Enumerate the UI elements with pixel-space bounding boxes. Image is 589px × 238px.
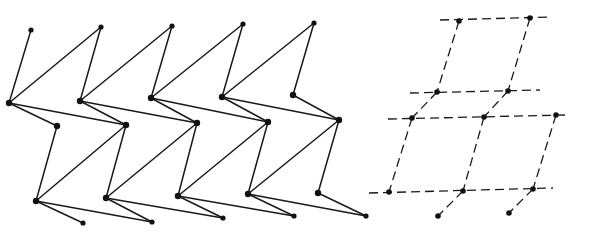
bond	[222, 97, 268, 122]
bond	[248, 194, 366, 216]
bond	[293, 23, 314, 95]
atom-node	[553, 112, 559, 118]
atom-node	[456, 18, 462, 24]
atom-node	[245, 191, 251, 197]
bond	[248, 120, 339, 194]
atom-node	[265, 119, 271, 125]
bond	[106, 125, 126, 198]
atom-node	[530, 186, 536, 192]
atom-node	[80, 220, 85, 225]
atom-node	[54, 123, 60, 129]
left-structure-bonds	[9, 23, 366, 223]
atom-node	[506, 210, 512, 216]
bond	[484, 91, 508, 117]
atom-node	[481, 114, 487, 120]
atom-node	[194, 120, 200, 126]
atom-node	[169, 23, 174, 28]
bond	[318, 120, 339, 193]
bond	[36, 126, 57, 201]
bond	[222, 24, 243, 97]
bond	[412, 92, 437, 118]
atom-node	[505, 88, 511, 94]
bond	[151, 24, 243, 98]
bond	[80, 27, 101, 101]
bond	[438, 191, 463, 216]
atom-node	[434, 89, 440, 95]
bond	[508, 18, 530, 91]
bond	[178, 123, 197, 196]
bond	[222, 23, 314, 97]
atom-node	[311, 20, 316, 25]
atom-node	[290, 92, 296, 98]
atom-node	[527, 15, 533, 21]
atom-node	[175, 193, 181, 199]
atom-node	[363, 213, 368, 218]
bond	[36, 201, 152, 222]
atom-node	[98, 24, 103, 29]
atom-node	[291, 213, 296, 218]
bond	[293, 95, 339, 120]
atom-node	[148, 95, 154, 101]
atom-node	[315, 190, 321, 196]
diagram-canvas	[0, 0, 589, 238]
right-structure-layer-lines	[369, 17, 565, 193]
atom-node	[386, 189, 392, 195]
atom-node	[103, 195, 109, 201]
atom-node	[77, 98, 83, 104]
atom-node	[28, 27, 33, 32]
bond	[318, 193, 366, 216]
bond	[509, 189, 533, 213]
bond	[80, 26, 172, 101]
layer-line	[410, 90, 540, 93]
bond	[463, 117, 484, 191]
atom-node	[409, 115, 415, 121]
bond	[437, 21, 459, 92]
atom-node	[435, 213, 441, 219]
bond	[151, 26, 172, 98]
bond	[389, 118, 412, 192]
atom-node	[123, 122, 129, 128]
bond	[178, 122, 268, 196]
bond	[36, 201, 83, 223]
left-structure-atoms	[6, 20, 369, 225]
atom-node	[240, 21, 245, 26]
bond	[248, 122, 268, 194]
atom-node	[219, 94, 225, 100]
atom-node	[6, 100, 12, 106]
bond	[106, 123, 197, 198]
atom-node	[460, 188, 466, 194]
bond	[533, 115, 556, 189]
bond	[9, 103, 57, 126]
bond	[9, 30, 31, 103]
bond	[9, 27, 101, 103]
atom-node	[149, 219, 154, 224]
bond	[36, 125, 126, 201]
atom-node	[220, 215, 225, 220]
atom-node	[336, 117, 342, 123]
atom-node	[33, 198, 39, 204]
